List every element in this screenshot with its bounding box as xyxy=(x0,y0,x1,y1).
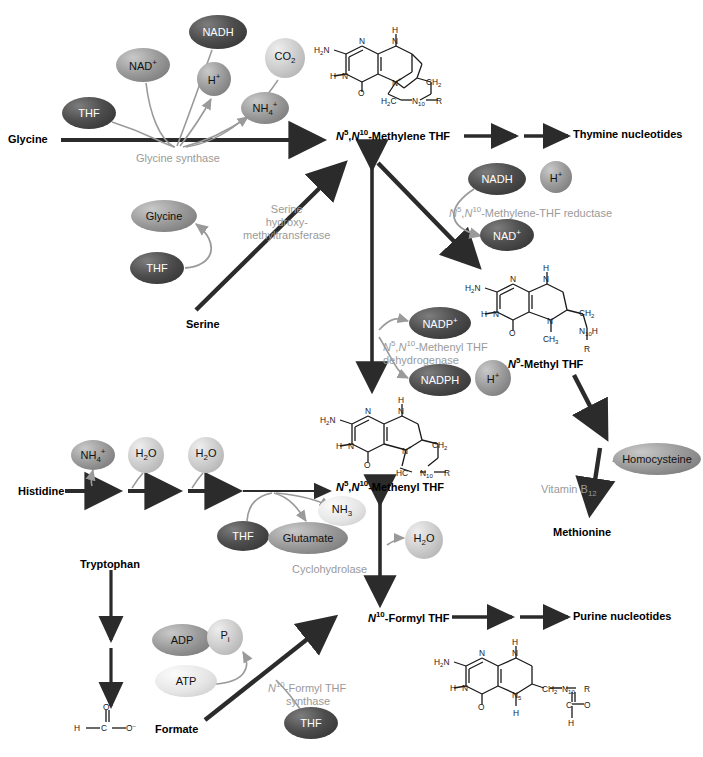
substrate-histidine: Histidine xyxy=(18,485,64,497)
metabolite-pi: Pi xyxy=(207,619,243,655)
svg-text:N10: N10 xyxy=(562,684,575,695)
svg-text:R: R xyxy=(436,96,442,106)
metabolite-nh4-plus: NH4+ xyxy=(241,92,289,124)
svg-text:+: + xyxy=(408,444,412,450)
enzyme-line: hydroxy- xyxy=(243,216,330,229)
metabolite-h2o-his2: H2O xyxy=(188,437,224,473)
metabolite-homocysteine: Homocysteine xyxy=(613,443,701,475)
svg-text:N: N xyxy=(512,648,518,658)
metabolite-h2o-cyclo: H2O xyxy=(405,521,443,559)
metabolite-label: NH3 xyxy=(332,503,352,518)
metabolite-label: NAD+ xyxy=(129,58,157,72)
metabolite-glutamate: Glutamate xyxy=(268,522,348,554)
svg-text:N: N xyxy=(359,36,365,46)
folate-n10-formyl-thf: N10-Formyl THF xyxy=(368,610,450,624)
svg-text:O: O xyxy=(364,460,371,470)
svg-text:H2N: H2N xyxy=(465,283,480,294)
metabolite-thf-glycine: THF xyxy=(62,97,116,129)
svg-text:H2N: H2N xyxy=(314,45,329,56)
svg-text:O: O xyxy=(584,700,591,710)
svg-text:N: N xyxy=(342,71,348,81)
metabolite-glycine-bubble: Glycine xyxy=(131,200,197,232)
svg-text:H: H xyxy=(568,718,574,728)
metabolite-label: NADP+ xyxy=(422,316,457,330)
metabolite-h-plus-gly: H+ xyxy=(197,62,231,96)
svg-text:H: H xyxy=(336,441,342,451)
curve-to-nh4-his xyxy=(91,470,93,486)
svg-text:CH3: CH3 xyxy=(543,334,559,345)
svg-text:CH2: CH2 xyxy=(542,684,558,695)
svg-text:H2N: H2N xyxy=(320,415,335,426)
svg-text:O: O xyxy=(509,328,516,338)
metabolite-nad-plus-gly: NAD+ xyxy=(116,48,170,82)
folate-n5-methyl-thf: N5-Methyl THF xyxy=(508,356,583,370)
metabolite-label: NH4+ xyxy=(81,447,106,464)
svg-text:R: R xyxy=(584,344,590,354)
product-methionine: Methionine xyxy=(553,526,611,538)
enzyme-line: synthase xyxy=(268,695,346,708)
metabolite-nh4-his: NH4+ xyxy=(71,440,115,470)
svg-text:H: H xyxy=(512,637,518,647)
metabolite-label: H+ xyxy=(208,72,221,86)
product-purine-nucleotides: Purine nucleotides xyxy=(573,610,671,622)
enzyme-line: methyltransferase xyxy=(243,229,330,242)
methylene-thf-structure: H2N N N H N H O N + CH2 H2C N10 R xyxy=(304,24,486,134)
metabolite-label: NH4+ xyxy=(253,100,278,117)
metabolite-label: H2O xyxy=(196,447,217,462)
metabolite-nadp-plus: NADP+ xyxy=(409,307,471,339)
metabolite-thf-serine: THF xyxy=(130,252,184,284)
svg-text:HC: HC xyxy=(396,468,408,478)
enzyme-methylene-thf-reductase: N5,N10-Methylene-THF reductase xyxy=(449,203,612,220)
curve-to-hplus xyxy=(180,99,211,146)
metabolite-label: H+ xyxy=(550,170,563,184)
metabolite-h2o-his1: H2O xyxy=(128,437,164,473)
curve-to-nadp xyxy=(379,319,408,330)
metabolite-label: THF xyxy=(232,530,253,542)
svg-text:O: O xyxy=(103,702,110,712)
svg-text:H: H xyxy=(398,395,404,405)
metabolite-co2: CO2 xyxy=(265,38,305,78)
curve-thf-into-chain xyxy=(247,493,272,521)
metabolite-nadh-red: NADH xyxy=(468,163,526,195)
enzyme-methenyl-thf-dehydrogenase: N5,N10-Methenyl THF dehydrogenase xyxy=(383,337,488,367)
enzyme-serine-hydroxymethyltransferase: Serine hydroxy- methyltransferase xyxy=(243,203,330,242)
arrow-to-methionine-2 xyxy=(590,448,600,513)
metabolite-label: Pi xyxy=(220,629,229,644)
svg-text:H: H xyxy=(513,708,519,718)
svg-text:H: H xyxy=(450,683,456,693)
curve-to-nh4 xyxy=(183,117,248,147)
svg-text:N: N xyxy=(547,316,553,326)
metabolite-thf-formate: THF xyxy=(284,707,338,739)
svg-text:H: H xyxy=(543,263,549,273)
svg-text:CH2: CH2 xyxy=(432,440,448,451)
metabolite-thf-his: THF xyxy=(217,521,269,551)
metabolite-label: THF xyxy=(78,107,99,119)
svg-text:CH2: CH2 xyxy=(579,308,595,319)
svg-text:N10H: N10H xyxy=(579,326,598,337)
curve-thf-to-glycine-shmt xyxy=(185,224,211,268)
substrate-tryptophan: Tryptophan xyxy=(80,558,140,570)
metabolite-label: ADP xyxy=(171,634,194,646)
curve-h2o-1 xyxy=(132,473,143,488)
svg-text:N: N xyxy=(479,648,485,658)
folate-n5-n10-methylene-thf: N5,N10-Methylene THF xyxy=(336,128,450,142)
svg-text:N: N xyxy=(510,274,516,284)
metabolite-label: NADH xyxy=(202,26,233,38)
svg-text:N: N xyxy=(493,309,499,319)
curve-nad-glycine xyxy=(146,83,174,147)
enzyme-cyclohydrolase: Cyclohydrolase xyxy=(292,563,367,576)
curve-h2o-2 xyxy=(192,473,203,488)
metabolite-label: THF xyxy=(300,717,321,729)
svg-text:R: R xyxy=(444,468,450,478)
metabolite-label: Homocysteine xyxy=(622,453,692,465)
svg-text:H: H xyxy=(392,25,398,35)
svg-text:O–: O– xyxy=(126,723,137,733)
svg-text:N: N xyxy=(462,683,468,693)
metabolite-label: Glutamate xyxy=(283,532,334,544)
svg-text:O: O xyxy=(478,702,485,712)
svg-text:H: H xyxy=(330,71,336,81)
cofactor-vitamin-b12: Vitamin B12 xyxy=(541,483,597,500)
folate-n5-n10-methenyl-thf: N5,N10-Methenyl THF xyxy=(336,479,444,493)
svg-text:H: H xyxy=(481,309,487,319)
metabolite-label: H2O xyxy=(414,532,435,547)
